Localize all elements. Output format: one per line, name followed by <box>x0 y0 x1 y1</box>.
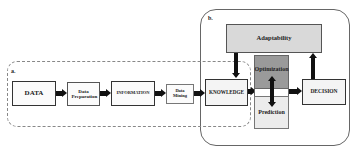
adaptability-box: Adaptability <box>226 24 322 53</box>
data-preparation-box: Data Preparation <box>67 82 100 106</box>
data-box: DATA <box>12 81 56 106</box>
region-a-label: a. <box>11 68 16 74</box>
data-label: DATA <box>25 90 44 97</box>
decision-box: DECISION <box>302 79 346 105</box>
region-b-label: b. <box>208 15 213 21</box>
information-label: INFORMATION <box>116 91 149 96</box>
data-preparation-label: Data Preparation <box>72 89 96 100</box>
arrow-adaptability-to-knowledge <box>234 53 238 74</box>
prediction-label: Prediction <box>258 109 285 115</box>
knowledge-label: KNOWLEDGE <box>209 90 244 95</box>
optimization-label: Optimization <box>255 66 289 72</box>
arrow-mining-to-knowledge <box>194 91 201 96</box>
arrow-decision-to-adaptability <box>311 57 315 79</box>
decision-label: DECISION <box>310 89 337 95</box>
arrow-optimization-to-decision <box>289 89 298 94</box>
arrow-optimization-prediction <box>270 80 274 103</box>
arrow-data-to-preparation <box>56 91 63 96</box>
knowledge-box: KNOWLEDGE <box>205 79 248 106</box>
arrow-knowledge-to-optimization <box>248 89 252 94</box>
data-mining-label: Data Mining <box>173 89 187 98</box>
arrow-information-to-mining <box>155 91 162 96</box>
adaptability-label: Adaptability <box>256 35 291 42</box>
arrow-preparation-to-information <box>100 91 107 96</box>
data-mining-box: Data Mining <box>166 84 194 104</box>
information-box: INFORMATION <box>111 81 155 106</box>
